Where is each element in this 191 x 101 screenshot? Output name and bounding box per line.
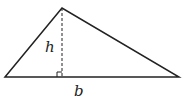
triangle <box>5 8 179 77</box>
height-label: h <box>45 38 55 56</box>
base-label: b <box>74 82 84 100</box>
triangle-diagram: h b <box>0 0 191 101</box>
